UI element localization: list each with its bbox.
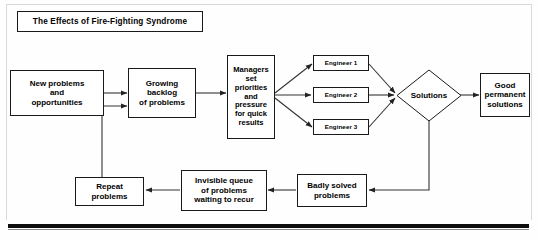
node-solutions-label-wrap: Solutions: [396, 69, 462, 122]
node-engineer-1-label: Engineer 1: [325, 59, 358, 66]
node-engineer-3[interactable]: Engineer 3: [313, 119, 369, 135]
diagram-title-box: The Effects of Fire-Fighting Syndrome: [17, 11, 203, 32]
node-badly-solved-problems[interactable]: Badly solved problems: [297, 174, 367, 207]
node-growing-backlog-line3: of problems: [139, 98, 185, 107]
node-invisible-line1: Invisible queue: [195, 176, 253, 185]
node-growing-backlog[interactable]: Growing backlog of problems: [128, 68, 196, 118]
node-growing-backlog-line1: Growing: [146, 79, 178, 88]
edge-repeat-to-backlog: [102, 106, 127, 177]
node-engineer-3-label: Engineer 3: [325, 123, 358, 130]
node-growing-backlog-line2: backlog: [147, 88, 177, 97]
node-invisible-queue[interactable]: Invisible queue of problems waiting to r…: [181, 170, 267, 211]
node-solutions-label: Solutions: [411, 91, 447, 100]
node-good-line3: solutions: [487, 100, 523, 109]
edge-eng3-to-solutions: [369, 98, 395, 127]
node-invisible-line2: of problems: [201, 186, 247, 195]
edge-managers-to-eng3: [275, 98, 312, 127]
diagram-page: The Effects of Fire-Fighting Syndrome Ne…: [0, 0, 538, 240]
node-new-problems-line3: opportunities: [31, 98, 82, 107]
node-engineer-2[interactable]: Engineer 2: [313, 87, 369, 103]
node-invisible-line3: waiting to recur: [194, 195, 254, 204]
node-repeat-line2: problems: [91, 192, 127, 201]
edge-solutions-to-badly: [369, 120, 429, 190]
edge-managers-to-eng1: [275, 64, 312, 93]
node-engineer-1[interactable]: Engineer 1: [313, 55, 369, 71]
node-good-line1: Good: [495, 81, 516, 90]
node-new-problems-line2: and: [50, 88, 64, 97]
node-repeat-problems[interactable]: Repeat problems: [75, 177, 144, 206]
node-new-problems-line1: New problems: [30, 79, 85, 88]
node-managers-line7: results: [239, 119, 264, 128]
node-badly-line2: problems: [314, 191, 350, 200]
node-managers-set-priorities[interactable]: Managers set priorities and pressure for…: [227, 55, 275, 139]
node-good-permanent-solutions[interactable]: Good permanent solutions: [480, 73, 530, 117]
node-solutions-decision[interactable]: Solutions: [396, 69, 462, 122]
node-badly-line1: Badly solved: [307, 181, 356, 190]
node-new-problems[interactable]: New problems and opportunities: [10, 70, 104, 116]
diagram-title-text: The Effects of Fire-Fighting Syndrome: [33, 17, 187, 27]
node-good-line2: permanent: [485, 90, 526, 99]
node-repeat-line1: Repeat: [96, 182, 123, 191]
edge-eng1-to-solutions: [369, 64, 395, 93]
node-engineer-2-label: Engineer 2: [325, 91, 358, 98]
